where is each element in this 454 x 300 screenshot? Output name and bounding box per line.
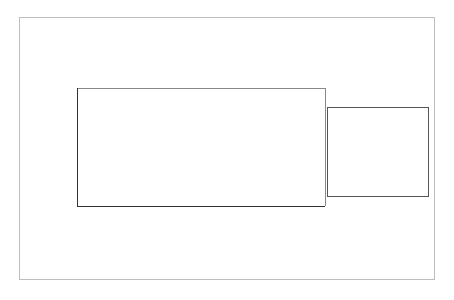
y-axis-line: [77, 88, 78, 206]
x-axis-line: [77, 206, 325, 207]
legend: [327, 107, 429, 197]
plot-right-border: [325, 88, 326, 206]
plot-top-border: [77, 88, 325, 89]
